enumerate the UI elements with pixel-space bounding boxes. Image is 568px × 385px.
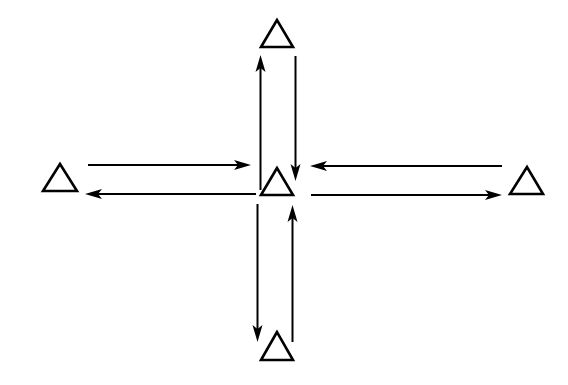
edge-left-to-center-arrow xyxy=(88,160,251,170)
edge-center-to-bottom-arrow xyxy=(253,204,263,342)
node-center-triangle-icon xyxy=(261,168,293,195)
node-bottom-triangle-icon xyxy=(261,332,293,360)
edge-top-to-center-arrow xyxy=(291,56,301,181)
star-network-diagram xyxy=(0,0,568,385)
edge-center-to-left-arrow xyxy=(85,189,256,199)
edge-center-to-top-arrow xyxy=(256,55,266,190)
edge-right-to-center-arrow xyxy=(310,161,502,171)
node-right-triangle-icon xyxy=(510,167,543,194)
edge-bottom-to-center-arrow xyxy=(288,205,298,342)
edge-center-to-right-arrow xyxy=(311,190,502,200)
node-top-triangle-icon xyxy=(261,20,293,47)
node-left-triangle-icon xyxy=(43,164,77,191)
